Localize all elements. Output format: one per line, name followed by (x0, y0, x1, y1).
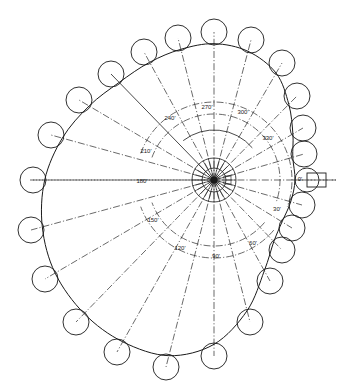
angle-label: 210' (140, 148, 151, 154)
angle-label: 270' (201, 104, 212, 110)
angle-label: 330' (262, 135, 273, 141)
roller-circle (284, 83, 310, 109)
roller-circle (291, 141, 317, 167)
radial-line (45, 180, 214, 279)
angle-label: 90' (212, 253, 220, 259)
radial-line (166, 180, 214, 367)
radial-line (76, 180, 214, 322)
radial-line (51, 135, 214, 180)
cam-hub (183, 130, 252, 202)
angle-label: 300' (237, 109, 248, 115)
radial-line (117, 180, 214, 352)
roller-follower-positions (18, 19, 317, 380)
base-circle-arc (183, 130, 252, 148)
cam-profile-outline (41, 44, 295, 356)
angle-label: 120' (174, 245, 185, 251)
radial-line (31, 180, 214, 230)
inner-label-arc-bottom (152, 203, 265, 246)
roller-circle (165, 25, 191, 51)
radial-line (214, 180, 292, 228)
angle-label: 150' (147, 217, 158, 223)
angle-label: 60' (249, 240, 257, 246)
angle-label: 180' (136, 178, 147, 184)
radial-line (214, 180, 270, 281)
roller-circle (131, 39, 157, 65)
shaft-center (211, 177, 218, 184)
radial-line (79, 100, 214, 180)
cam-profile-diagram: 0'30'60'90'120'150'180'210'240'270'300'3… (0, 0, 346, 391)
roller-circle (238, 27, 264, 53)
angle-label: 0' (298, 176, 302, 182)
outer-label-arc-top (141, 102, 292, 207)
angle-label: 30' (273, 206, 281, 212)
roller-circle (269, 237, 295, 263)
roller-circle (66, 87, 92, 113)
roller-circle (38, 122, 64, 148)
angle-label: 240' (164, 115, 175, 121)
